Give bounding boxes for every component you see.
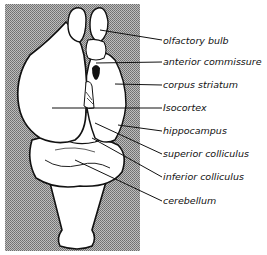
label-inferior-colliculus: inferior colliculus xyxy=(163,172,244,182)
label-anterior-commissure: anterior commissure xyxy=(163,57,262,67)
label-isocortex: Isocortex xyxy=(163,103,207,113)
brain-diagram: olfactory bulb anterior commissure corpu… xyxy=(0,0,267,255)
label-cerebellum: cerebellum xyxy=(163,196,216,206)
label-hippocampus: hippocampus xyxy=(163,126,227,136)
label-olfactory-bulb: olfactory bulb xyxy=(163,36,229,46)
label-corpus-striatum: corpus striatum xyxy=(163,80,238,90)
label-superior-colliculus: superior colliculus xyxy=(163,149,249,159)
olfactory-bulb-left xyxy=(68,8,86,42)
olfactory-bulb-right xyxy=(90,8,108,42)
